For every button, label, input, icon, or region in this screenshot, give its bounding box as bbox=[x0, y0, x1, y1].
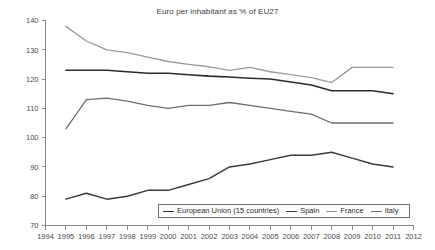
legend-label: Spain bbox=[300, 207, 319, 215]
x-tick-label: 2008 bbox=[323, 232, 340, 241]
legend-line-swatch bbox=[163, 211, 174, 212]
y-tick-label: 130 bbox=[26, 46, 39, 55]
legend-label: European Union (15 countries) bbox=[177, 207, 279, 215]
y-tick-label: 120 bbox=[26, 75, 39, 84]
chart-legend: European Union (15 countries)SpainFrance… bbox=[158, 204, 410, 218]
y-tick-label: 80 bbox=[30, 192, 38, 201]
x-tick-label: 2005 bbox=[262, 232, 279, 241]
x-tick-label: 2000 bbox=[160, 232, 177, 241]
series-line bbox=[66, 152, 393, 199]
x-tick-label: 2007 bbox=[303, 232, 320, 241]
x-tick-label: 1994 bbox=[37, 232, 54, 241]
x-tick-label: 2009 bbox=[344, 232, 361, 241]
y-tick-label: 140 bbox=[26, 16, 39, 25]
x-tick-label: 2006 bbox=[282, 232, 299, 241]
x-tick-label: 2012 bbox=[405, 232, 422, 241]
line-chart: Euro per inhabitant as % of EU27 7080901… bbox=[0, 0, 435, 250]
x-tick-label: 1999 bbox=[139, 232, 156, 241]
legend-line-swatch bbox=[371, 211, 382, 212]
x-tick-label: 2011 bbox=[385, 232, 401, 241]
x-tick-label: 2004 bbox=[242, 232, 259, 241]
series-line bbox=[66, 98, 393, 129]
data-series-group bbox=[66, 26, 393, 199]
y-tick-label: 110 bbox=[27, 104, 39, 113]
legend-entry[interactable]: France bbox=[326, 207, 363, 215]
legend-entry[interactable]: Spain bbox=[286, 207, 319, 215]
x-axis-ticks: 1994199519961997199819992000200120022003… bbox=[37, 226, 422, 241]
legend-label: Italy bbox=[385, 207, 399, 215]
x-tick-label: 2010 bbox=[364, 232, 381, 241]
x-tick-label: 1995 bbox=[58, 232, 75, 241]
x-tick-label: 2002 bbox=[201, 232, 218, 241]
legend-line-swatch bbox=[326, 211, 337, 212]
y-tick-label: 100 bbox=[26, 133, 39, 142]
x-tick-label: 1997 bbox=[98, 232, 115, 241]
x-tick-label: 2003 bbox=[221, 232, 238, 241]
legend-line-swatch bbox=[286, 211, 297, 212]
x-tick-label: 2001 bbox=[180, 232, 197, 241]
y-tick-label: 70 bbox=[30, 221, 38, 230]
legend-entry[interactable]: Italy bbox=[371, 207, 399, 215]
legend-label: France bbox=[340, 207, 363, 215]
x-tick-label: 1998 bbox=[119, 232, 136, 241]
legend-entry[interactable]: European Union (15 countries) bbox=[163, 207, 279, 215]
y-tick-label: 90 bbox=[30, 163, 38, 172]
y-axis-ticks: 708090100110120130140 bbox=[26, 16, 46, 230]
series-line bbox=[66, 26, 393, 82]
x-tick-label: 1996 bbox=[78, 232, 95, 241]
